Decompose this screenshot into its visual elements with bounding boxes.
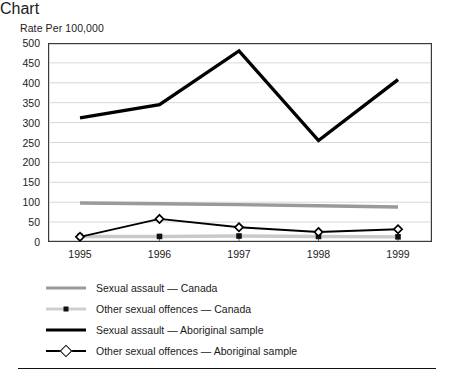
y-axis-tick: 150 xyxy=(22,176,40,188)
legend-item: Sexual assault — Aboriginal sample xyxy=(44,319,384,340)
black-thick-line-icon xyxy=(44,323,88,337)
footer-divider xyxy=(18,368,436,369)
gray-thick-line-icon xyxy=(44,281,88,295)
chart-legend: Sexual assault — Canada Other sexual off… xyxy=(44,277,384,361)
legend-item-label: Other sexual offences — Aboriginal sampl… xyxy=(96,345,297,357)
legend-item-label: Sexual assault — Aboriginal sample xyxy=(96,324,264,336)
y-axis-tick: 0 xyxy=(34,236,40,248)
legend-item: Other sexual offences — Canada xyxy=(44,298,384,319)
x-axis-tick: 1998 xyxy=(307,248,330,260)
y-axis-tick: 50 xyxy=(28,216,40,228)
chart-figure: Rate Per 100,000 50045040035030025020015… xyxy=(0,0,454,384)
y-axis-tick: 500 xyxy=(22,37,40,49)
x-axis-tick: 1995 xyxy=(68,248,91,260)
x-axis-tick-labels: 19951996199719981999 xyxy=(48,248,432,266)
y-axis-tick: 400 xyxy=(22,77,40,89)
black-line-diamond-marker-icon xyxy=(44,344,88,358)
y-axis-tick-labels: 500450400350300250200150100500 xyxy=(0,36,44,250)
plot-area xyxy=(48,43,432,242)
x-axis-tick: 1996 xyxy=(148,248,171,260)
chart-canvas xyxy=(48,43,432,242)
light-gray-line-square-marker-icon xyxy=(44,302,88,316)
y-axis-tick: 350 xyxy=(22,97,40,109)
y-axis-tick: 200 xyxy=(22,156,40,168)
x-axis-tick: 1997 xyxy=(227,248,250,260)
legend-item: Other sexual offences — Aboriginal sampl… xyxy=(44,340,384,361)
y-axis-tick: 250 xyxy=(22,137,40,149)
y-axis-title: Rate Per 100,000 xyxy=(20,22,104,34)
legend-item-label: Sexual assault — Canada xyxy=(96,282,217,294)
legend-item-label: Other sexual offences — Canada xyxy=(96,303,251,315)
y-axis-tick: 450 xyxy=(22,57,40,69)
legend-item: Sexual assault — Canada xyxy=(44,277,384,298)
x-axis-tick: 1999 xyxy=(386,248,409,260)
y-axis-tick: 100 xyxy=(22,196,40,208)
y-axis-tick: 300 xyxy=(22,117,40,129)
